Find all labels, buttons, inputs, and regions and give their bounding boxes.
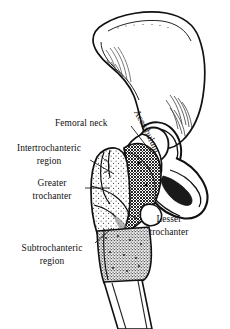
label-lesser-line2: trochanter (138, 227, 200, 239)
label-lesser-line1: Lesser (140, 214, 198, 226)
label-greater-line2: trochanter (20, 191, 84, 203)
greater-trochanter-region (91, 148, 130, 233)
label-intertrochanteric-line1: Intertrochanteric (8, 143, 90, 155)
obturator-shadow (161, 176, 192, 205)
greater-trochanter-fill (91, 148, 130, 233)
label-greater-line1: Greater (20, 178, 84, 190)
anatomical-figure: Femoral neck Intertrochanteric region Gr… (0, 0, 230, 329)
femoral-shaft-outline (104, 280, 152, 329)
label-subtrochanteric-line1: Subtrochanteric (10, 243, 94, 255)
label-femoral-neck: Femoral neck (55, 118, 107, 130)
label-intertrochanteric-line2: region (8, 156, 90, 168)
femoral-shaft-region (104, 280, 152, 329)
label-subtrochanteric-line2: region (10, 256, 94, 268)
